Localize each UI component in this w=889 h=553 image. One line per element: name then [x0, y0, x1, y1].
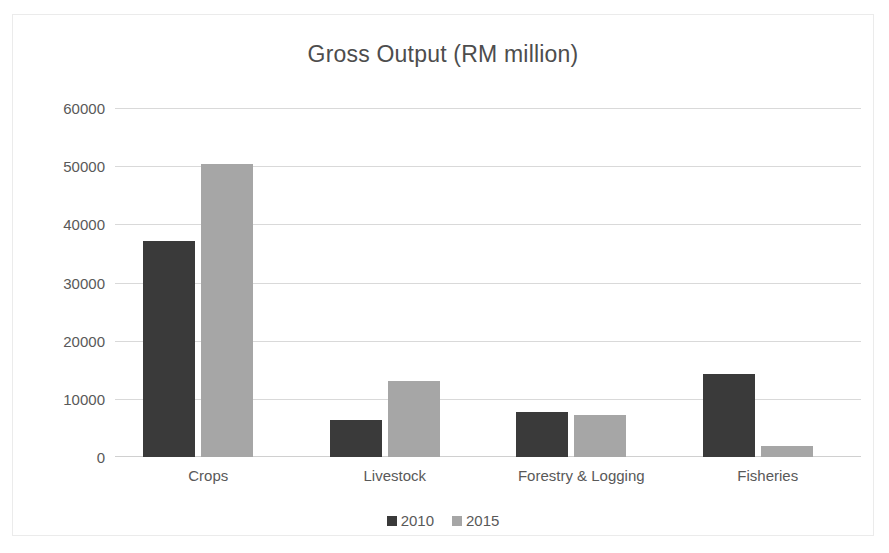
y-tick-label: 0: [41, 449, 105, 466]
bar-2010: [516, 412, 568, 457]
chart-frame: Gross Output (RM million) 60000 50000 40…: [12, 14, 874, 536]
bar-2015: [761, 446, 813, 457]
y-tick-label: 20000: [41, 332, 105, 349]
x-axis: Crops Livestock Forestry & Logging Fishe…: [115, 467, 861, 493]
chart-legend: 2010 2015: [13, 512, 873, 529]
bar-group: [488, 108, 675, 457]
legend-label: 2010: [401, 512, 434, 529]
y-tick-label: 60000: [41, 100, 105, 117]
bar-2010: [143, 241, 195, 457]
chart-title: Gross Output (RM million): [13, 41, 873, 68]
y-tick-label: 40000: [41, 216, 105, 233]
x-tick-label-forestry-logging: Forestry & Logging: [488, 467, 675, 484]
bar-group: [302, 108, 489, 457]
plot-area: [115, 108, 861, 457]
bar-2015: [574, 415, 626, 457]
legend-label: 2015: [466, 512, 499, 529]
bar-2010: [330, 420, 382, 457]
y-tick-label: 30000: [41, 274, 105, 291]
legend-swatch-icon: [387, 516, 397, 526]
bar-group: [115, 108, 302, 457]
y-tick-label: 50000: [41, 158, 105, 175]
x-tick-label-livestock: Livestock: [302, 467, 489, 484]
x-tick-label-fisheries: Fisheries: [675, 467, 862, 484]
y-tick-label: 10000: [41, 390, 105, 407]
legend-item-2010: 2010: [387, 512, 434, 529]
legend-item-2015: 2015: [452, 512, 499, 529]
x-tick-label-crops: Crops: [115, 467, 302, 484]
legend-swatch-icon: [452, 516, 462, 526]
bar-2015: [201, 164, 253, 457]
bar-2015: [388, 381, 440, 457]
y-axis: 60000 50000 40000 30000 20000 10000 0: [33, 108, 105, 457]
bar-group: [675, 108, 862, 457]
bar-2010: [703, 374, 755, 457]
